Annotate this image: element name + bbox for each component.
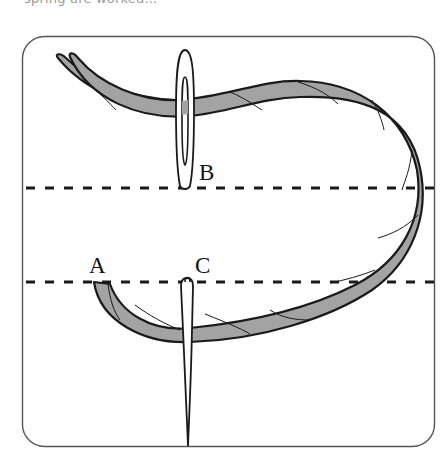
needle-b (176, 50, 194, 189)
label-c: C (195, 253, 210, 278)
label-a: A (89, 253, 106, 278)
label-b: B (199, 160, 214, 185)
stitch-diagram: B A C (0, 0, 447, 462)
